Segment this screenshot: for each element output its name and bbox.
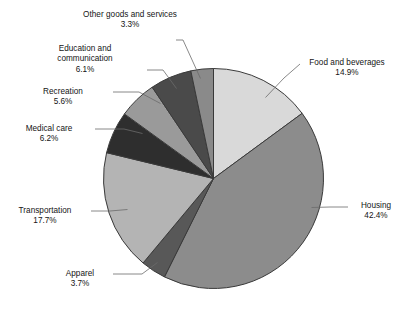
pie-label-housing: Housing 42.4% [351,201,401,222]
pie-label-medical-care: Medical care 6.2% [8,124,90,145]
pie-slices [104,69,324,289]
pie-label-name-food-and-beverages: Food and beverages [292,58,402,68]
pie-label-name-recreation: Recreation [19,87,107,97]
pie-label-value-food-and-beverages: 14.9% [292,68,402,78]
pie-label-name-transportation: Transportation [2,206,88,216]
pie-label-transportation: Transportation 17.7% [2,206,88,227]
pie-label-value-transportation: 17.7% [2,216,88,226]
pie-label-value-apparel: 3.7% [51,279,109,289]
pie-chart-figure: Other goods and services 3.3% Education … [0,0,403,309]
pie-label-name-housing: Housing [351,201,401,211]
pie-label-name-medical-care: Medical care [8,124,90,134]
pie-label-apparel: Apparel 3.7% [51,269,109,290]
pie-label-name-education-and-communication: Education and [27,44,143,54]
pie-label-education-and-communication: Education and communication 6.1% [27,44,143,75]
pie-label-value-education-and-communication: 6.1% [27,65,143,75]
pie-label-name-apparel: Apparel [51,269,109,279]
pie-label-value-recreation: 5.6% [19,97,107,107]
pie-label-name-other-goods-and-services: Other goods and services [52,10,208,20]
pie-label-value-medical-care: 6.2% [8,134,90,144]
pie-label-name2-education-and-communication: communication [27,54,143,64]
pie-label-recreation: Recreation 5.6% [19,87,107,108]
pie-label-other-goods-and-services: Other goods and services 3.3% [52,10,208,31]
pie-label-value-other-goods-and-services: 3.3% [52,20,208,30]
pie-label-food-and-beverages: Food and beverages 14.9% [292,58,402,79]
leader-line-housing [312,207,349,208]
pie-label-value-housing: 42.4% [351,211,401,221]
